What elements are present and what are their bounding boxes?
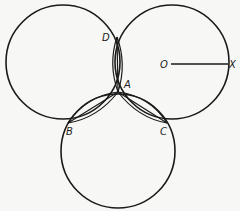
right-circle <box>115 5 229 119</box>
label-D: D <box>102 32 110 43</box>
geometry-diagram: D A B C O X <box>0 0 240 211</box>
chord-AB <box>68 92 118 123</box>
label-A: A <box>123 79 131 90</box>
label-B: B <box>66 126 73 137</box>
label-X: X <box>228 59 237 70</box>
label-O: O <box>160 59 168 70</box>
label-C: C <box>160 126 167 137</box>
chord-AC <box>118 92 167 123</box>
